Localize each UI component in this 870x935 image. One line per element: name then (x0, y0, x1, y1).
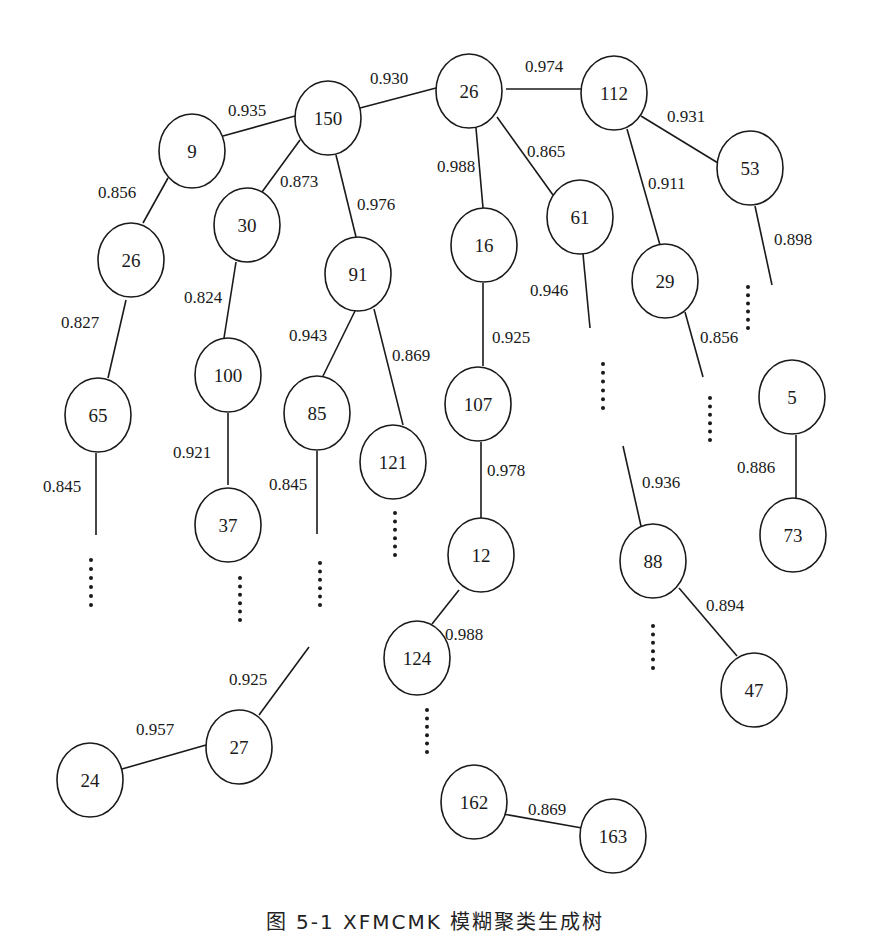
vertical-ellipsis-icon (425, 708, 429, 754)
edge-weight-label: 0.930 (370, 69, 408, 88)
edge-weight-labels: 0.9300.9350.9740.9310.8560.8730.9760.988… (43, 57, 812, 819)
tree-node: 5 (759, 360, 825, 434)
tree-node: 163 (580, 799, 646, 873)
tree-node: 61 (547, 180, 613, 254)
edge-weight-label: 0.886 (737, 458, 775, 477)
tree-node: 112 (581, 56, 647, 130)
node-label: 73 (784, 525, 803, 546)
edge-weight-label: 0.856 (98, 183, 136, 202)
tree-node: 29 (632, 244, 698, 318)
tree-edge (323, 311, 355, 376)
node-label: 26 (460, 81, 479, 102)
node-label: 5 (787, 387, 797, 408)
edge-weight-label: 0.824 (184, 288, 223, 307)
node-label: 12 (472, 545, 491, 566)
vertical-ellipsis-icon (238, 576, 242, 622)
tree-edge (476, 128, 483, 208)
node-label: 150 (314, 108, 343, 129)
node-label: 16 (475, 235, 494, 256)
edge-weight-label: 0.865 (527, 142, 565, 161)
tree-node: 24 (57, 743, 123, 817)
edge-weight-label: 0.873 (280, 172, 318, 191)
tree-edge (755, 206, 772, 285)
tree-node: 100 (195, 338, 261, 412)
tree-edge (374, 309, 403, 425)
edge-weight-label: 0.845 (43, 477, 81, 496)
edge-weight-label: 0.894 (706, 596, 745, 615)
edge-weight-label: 0.931 (667, 107, 705, 126)
node-label: 65 (89, 405, 108, 426)
figure-caption: 图 5-1 XFMCMK 模糊聚类生成树 (0, 906, 870, 935)
tree-edge (108, 300, 126, 378)
node-label: 26 (122, 250, 141, 271)
tree-node: 162 (441, 765, 507, 839)
tree-node: 150 (295, 81, 361, 155)
node-label: 24 (81, 770, 101, 791)
node-label: 163 (599, 826, 628, 847)
tree-edge (224, 262, 236, 338)
edge-weight-label: 0.921 (173, 443, 211, 462)
tree-node: 30 (214, 188, 280, 262)
edge-weight-label: 0.943 (289, 326, 327, 345)
tree-node: 26 (98, 223, 164, 297)
tree-node: 26 (436, 54, 502, 128)
node-label: 9 (187, 141, 197, 162)
edge-weight-label: 0.957 (136, 720, 175, 739)
vertical-ellipsis-icon (601, 362, 605, 410)
tree-node: 88 (620, 524, 686, 598)
edge-weight-label: 0.978 (487, 461, 525, 480)
edge-weight-label: 0.936 (642, 473, 680, 492)
tree-node: 121 (360, 425, 426, 499)
tree-node: 73 (760, 498, 826, 572)
vertical-ellipsis-icon (318, 561, 322, 607)
tree-edge (143, 178, 168, 223)
vertical-ellipsis-icon (746, 285, 750, 330)
vertical-ellipsis-icon (708, 396, 712, 442)
edge-weight-label: 0.856 (700, 328, 738, 347)
tree-node: 47 (721, 653, 787, 727)
node-label: 30 (238, 215, 257, 236)
tree-node: 65 (65, 378, 131, 452)
node-label: 88 (644, 551, 663, 572)
edge-weight-label: 0.935 (228, 101, 266, 120)
tree-node: 37 (195, 488, 261, 562)
edge-weight-label: 0.946 (530, 281, 568, 300)
tree-edge (623, 446, 641, 526)
node-label: 107 (464, 394, 493, 415)
tree-node: 91 (325, 237, 391, 311)
vertical-ellipsis-icon (651, 624, 655, 670)
node-label: 162 (460, 792, 489, 813)
edge-weight-label: 0.988 (445, 625, 483, 644)
edge-weight-label: 0.869 (392, 346, 430, 365)
node-label: 124 (403, 648, 432, 669)
tree-edge (336, 155, 356, 237)
tree-node: 53 (717, 131, 783, 205)
edge-weight-label: 0.911 (648, 174, 686, 193)
tree-node: 85 (284, 376, 350, 450)
node-label: 85 (308, 403, 327, 424)
edge-weight-label: 0.925 (229, 670, 267, 689)
tree-node: 16 (451, 208, 517, 282)
edge-weight-label: 0.869 (528, 800, 566, 819)
node-label: 29 (656, 271, 675, 292)
tree-edge (432, 590, 459, 624)
tree-node: 9 (159, 114, 225, 188)
tree-edge (360, 88, 436, 108)
vertical-ellipsis-icon (393, 511, 397, 557)
node-label: 91 (349, 264, 368, 285)
tree-node: 12 (448, 518, 514, 592)
node-label: 53 (741, 158, 760, 179)
node-label: 100 (214, 365, 243, 386)
edge-weight-label: 0.988 (437, 157, 475, 176)
edge-weight-label: 0.925 (492, 328, 530, 347)
tree-node: 124 (384, 621, 450, 695)
node-label: 37 (219, 515, 238, 536)
node-label: 27 (230, 737, 249, 758)
edge-weight-label: 0.976 (357, 195, 395, 214)
edge-weight-label: 0.898 (774, 230, 812, 249)
tree-edge (583, 254, 590, 328)
edge-weight-label: 0.974 (525, 57, 564, 76)
edge-weight-label: 0.845 (269, 475, 307, 494)
node-label: 47 (745, 680, 764, 701)
